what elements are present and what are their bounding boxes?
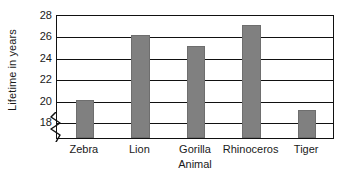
y-axis-break-icon xyxy=(48,112,64,142)
y-axis-tick-label: 28 xyxy=(40,10,52,21)
y-axis-tick-label: 24 xyxy=(40,52,52,63)
bar xyxy=(131,35,149,138)
bar xyxy=(187,46,205,138)
bar-chart-figure: Lifetime in years 182022242628 ZebraLion… xyxy=(0,0,351,180)
zigzag-icon xyxy=(48,112,64,142)
x-axis-title: Animal xyxy=(56,158,334,170)
x-axis-tick-label: Zebra xyxy=(69,142,98,156)
bar xyxy=(298,110,316,138)
y-axis-title-label: Lifetime in years xyxy=(6,29,18,111)
plot-area xyxy=(56,15,334,139)
y-axis-tick-label: 20 xyxy=(40,95,52,106)
x-axis-tick-label: Rhinoceros xyxy=(223,142,279,156)
bar xyxy=(76,100,94,138)
x-axis-tick-label: Tiger xyxy=(294,142,319,156)
bar xyxy=(242,25,260,138)
x-axis-tick-label: Lion xyxy=(129,142,150,156)
x-axis-tick-labels: ZebraLionGorillaRhinocerosTiger xyxy=(56,142,334,158)
y-axis-tick-labels: 182022242628 xyxy=(24,15,54,119)
bars-layer xyxy=(57,16,333,138)
y-axis-title: Lifetime in years xyxy=(0,0,24,140)
y-axis-tick-label: 26 xyxy=(40,31,52,42)
y-axis-tick-label: 22 xyxy=(40,74,52,85)
x-axis-tick-label: Gorilla xyxy=(179,142,211,156)
